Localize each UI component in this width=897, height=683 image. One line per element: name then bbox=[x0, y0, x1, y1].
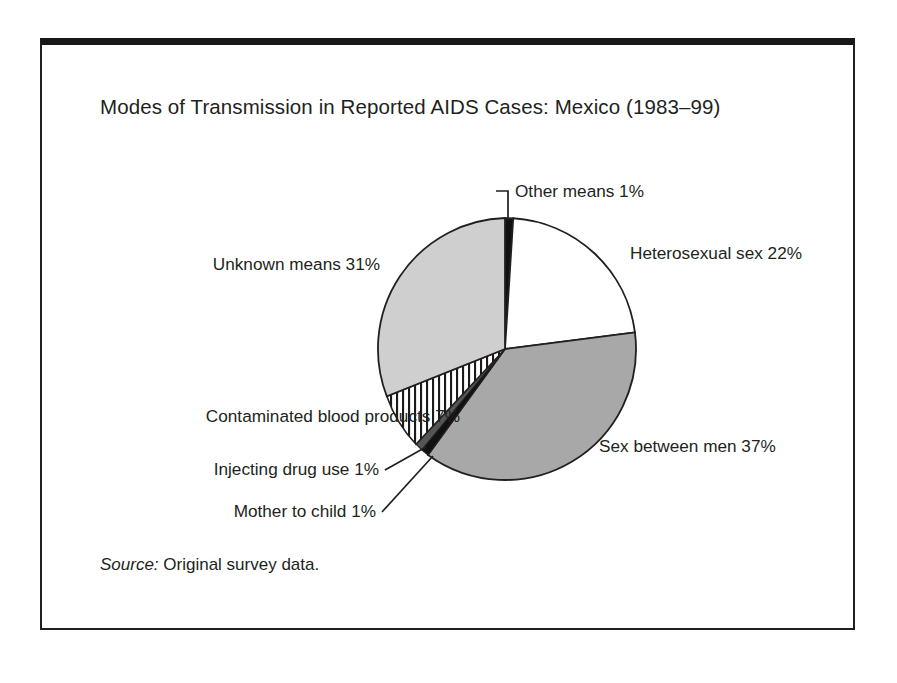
leader-line-mother-to-child bbox=[382, 456, 433, 512]
figure-frame: Modes of Transmission in Reported AIDS C… bbox=[40, 38, 855, 630]
pie-label-unknown-means: Unknown means 31% bbox=[213, 254, 380, 274]
pie-label-other-means: Other means 1% bbox=[515, 181, 644, 201]
source-note: Source: Original survey data. bbox=[100, 555, 319, 575]
source-text: Original survey data. bbox=[159, 555, 320, 574]
pie-label-mother-to-child: Mother to child 1% bbox=[234, 501, 376, 521]
pie-label-heterosexual-sex: Heterosexual sex 22% bbox=[630, 243, 802, 263]
pie-label-sex-between-men: Sex between men 37% bbox=[599, 436, 776, 456]
pie-chart: Other means 1% Heterosexual sex 22% Sex … bbox=[42, 45, 857, 637]
pie-slice-heterosexual-sex[interactable] bbox=[505, 218, 635, 349]
leader-line-other-means bbox=[496, 191, 508, 221]
pie-label-contaminated-blood-products: Contaminated blood products 7% bbox=[206, 406, 460, 426]
source-label: Source: bbox=[100, 555, 159, 574]
leader-line-injecting-drug-use bbox=[385, 447, 426, 470]
pie-label-injecting-drug-use: Injecting drug use 1% bbox=[214, 459, 379, 479]
